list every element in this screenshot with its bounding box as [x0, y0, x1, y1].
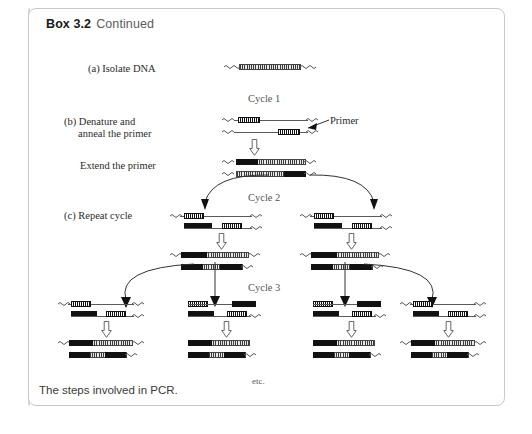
down-arrow	[216, 233, 227, 250]
squiggle-left-icon	[400, 300, 412, 306]
squiggle-left-icon	[170, 212, 182, 218]
label-step-b-line2: anneal the primer	[78, 128, 151, 140]
down-arrow	[221, 321, 232, 338]
annealed-primer	[352, 223, 372, 229]
primer-block	[311, 264, 333, 270]
down-arrow	[443, 321, 454, 338]
down-arrow	[346, 321, 357, 338]
branch-arrow-right	[306, 172, 386, 214]
annealed-primer	[222, 223, 242, 229]
squiggle-right-icon	[380, 212, 392, 218]
primer-block	[69, 352, 90, 358]
figure-caption: The steps involved in PCR.	[39, 384, 178, 396]
label-cycle-3: Cycle 3	[248, 282, 280, 293]
squiggle-left-icon	[222, 158, 236, 164]
annealed-primer	[314, 213, 334, 219]
squiggle-left-icon	[300, 212, 312, 218]
squiggle-right-icon	[132, 300, 144, 306]
primer-block	[224, 352, 245, 358]
squiggle-right-icon	[241, 263, 253, 269]
squiggle-right-icon	[244, 351, 256, 357]
squiggle-right-icon	[467, 351, 479, 357]
primer-block	[284, 171, 306, 177]
annealed-primer	[352, 311, 372, 317]
primer-block	[411, 352, 432, 358]
squiggle-right-icon	[378, 251, 390, 257]
down-arrow	[249, 139, 260, 156]
primer-block	[311, 252, 337, 258]
primer-block	[188, 352, 209, 358]
squiggle-right-icon	[304, 158, 318, 164]
squiggle-left-icon	[222, 128, 236, 134]
squiggle-right-icon	[249, 312, 261, 318]
branch-arrow-left	[193, 172, 273, 214]
box-number: Box 3.2	[46, 17, 91, 31]
primer-block	[232, 301, 256, 307]
primer-block	[69, 340, 93, 346]
label-primer: Primer	[330, 115, 359, 127]
primer-block	[181, 252, 207, 258]
annealed-primer	[184, 213, 204, 219]
annealed-primer	[448, 311, 468, 317]
primer-block	[313, 352, 334, 358]
squiggle-right-icon	[250, 224, 262, 230]
primer-block	[411, 340, 435, 346]
label-extend-primer: Extend the primer	[80, 160, 156, 172]
primer-block	[188, 340, 212, 346]
primer-block	[236, 159, 258, 165]
label-cycle-1: Cycle 1	[248, 93, 280, 104]
squiggle-right-icon	[380, 224, 392, 230]
annealed-primer	[227, 311, 247, 317]
label-step-b-line1: (b) Denature and	[64, 116, 135, 128]
primer-pointer-arrow	[296, 116, 332, 134]
box-continued-label: Continued	[96, 17, 154, 31]
annealed-primer	[71, 301, 91, 307]
squiggle-left-icon	[224, 63, 240, 69]
squiggle-right-icon	[369, 351, 381, 357]
duplex-body	[239, 64, 301, 70]
down-arrow	[101, 321, 112, 338]
label-etc: etc.	[252, 376, 265, 386]
squiggle-right-icon	[474, 339, 486, 345]
squiggle-right-icon	[374, 312, 386, 318]
primer-block	[349, 352, 370, 358]
primer-block	[105, 352, 126, 358]
squiggle-right-icon	[250, 212, 262, 218]
annealed-primer	[413, 301, 433, 307]
squiggle-right-icon	[300, 63, 316, 69]
primer-block	[313, 340, 337, 346]
box-header: Box 3.2Continued	[46, 17, 154, 31]
annealed-primer	[238, 117, 260, 123]
primer-block	[447, 352, 468, 358]
label-step-c: (c) Repeat cycle	[64, 210, 132, 222]
squiggle-left-icon	[58, 300, 70, 306]
squiggle-right-icon	[125, 351, 137, 357]
squiggle-right-icon	[132, 312, 144, 318]
squiggle-left-icon	[222, 116, 236, 122]
annealed-primer	[106, 311, 126, 317]
squiggle-right-icon	[474, 300, 486, 306]
primer-block	[357, 301, 381, 307]
squiggle-right-icon	[132, 339, 144, 345]
label-step-a: (a) Isolate DNA	[88, 63, 156, 75]
squiggle-right-icon	[248, 251, 260, 257]
down-arrow	[346, 233, 357, 250]
squiggle-right-icon	[474, 312, 486, 318]
